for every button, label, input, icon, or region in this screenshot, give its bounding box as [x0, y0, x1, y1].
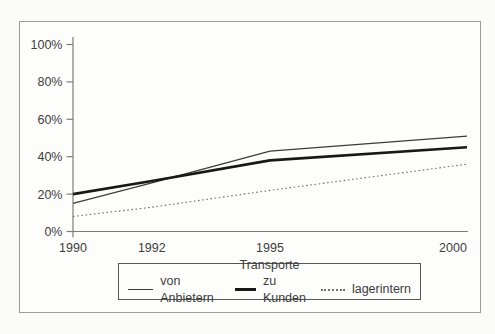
legend-label-zu-kunden: zu Kunden	[263, 273, 321, 307]
legend-row: von Anbietern zu Kunden lagerintern	[119, 273, 420, 307]
y-tick-label: 20%	[37, 188, 62, 202]
y-tick-label: 60%	[37, 113, 62, 127]
x-tick-label: 1995	[256, 241, 284, 255]
legend: Transporte von Anbietern zu Kunden lager…	[118, 263, 421, 300]
thick-line-sample-icon	[235, 288, 256, 291]
y-tick-label: 40%	[37, 150, 62, 164]
series-line-thick-solid	[73, 147, 467, 194]
x-tick-label: 1990	[59, 241, 87, 255]
y-tick-label: 100%	[31, 38, 63, 52]
series-line-thin-solid	[73, 136, 467, 203]
y-tick-label: 0%	[44, 225, 62, 239]
thin-line-sample-icon	[128, 289, 153, 290]
legend-entry-von-anbietern: von Anbietern	[128, 273, 235, 307]
series-line-dotted	[73, 164, 467, 216]
legend-label-von-anbietern: von Anbietern	[160, 273, 234, 307]
scanned-chart-page: 0%20%40%60%80%100%1990199219952000 Trans…	[0, 0, 495, 334]
y-tick-label: 80%	[37, 75, 62, 89]
legend-entry-lagerintern: lagerintern	[321, 281, 411, 298]
x-tick-label: 2000	[439, 241, 467, 255]
legend-title: Transporte	[240, 257, 300, 273]
legend-label-lagerintern: lagerintern	[352, 281, 411, 298]
legend-entry-zu-kunden: zu Kunden	[235, 273, 321, 307]
x-tick-label: 1992	[138, 241, 166, 255]
dotted-line-sample-icon	[321, 289, 345, 291]
